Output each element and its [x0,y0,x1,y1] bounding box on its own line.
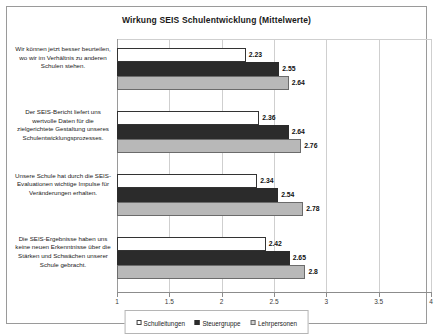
legend-item[interactable]: Schulleitungen [136,319,185,327]
bar-value-label: 2.78 [306,202,319,216]
x-tick-label: 1.5 [165,298,174,305]
bar [117,188,278,202]
x-tick-label: 3 [325,298,329,305]
bar-value-label: 2.55 [282,62,295,76]
legend-label: Lehrpersonen [258,320,297,327]
bar-value-label: 2.36 [262,111,275,125]
bar [117,48,246,62]
category-label: Wir können jetzt besser beurteilen, wo w… [15,45,111,71]
tick-mark [169,293,170,297]
tick-mark [222,293,223,297]
bar-value-label: 2.8 [308,265,317,279]
bar-value-label: 2.76 [304,139,317,153]
chart-title: Wirkung SEIS Schulentwicklung (Mittelwer… [7,15,426,25]
gridline [431,39,432,292]
legend-label: Steuergruppe [202,320,240,327]
bar-value-label: 2.23 [249,48,262,62]
bar [117,237,266,251]
bar [117,139,301,153]
legend-label: Schulleitungen [144,320,185,327]
tick-mark [326,293,327,297]
x-tick-label: 2 [220,298,224,305]
chart-frame: Wirkung SEIS Schulentwicklung (Mittelwer… [6,6,427,324]
x-tick-label: 4 [429,298,433,305]
tick-mark [379,293,380,297]
bar-value-label: 2.42 [269,237,282,251]
bar [117,174,257,188]
bar-value-label: 2.64 [292,76,305,90]
legend-swatch-icon [136,320,141,325]
bar [117,111,259,125]
x-tick-label: 3.5 [374,298,383,305]
bar-value-label: 2.34 [260,174,273,188]
bar [117,125,289,139]
bar [117,202,303,216]
x-tick-label: 1 [115,298,119,305]
category-label: Die SEIS-Ergebnisse haben uns keine neue… [15,235,111,269]
legend-item[interactable]: Steuergruppe [195,319,241,327]
legend-swatch-icon [251,320,256,325]
x-tick-label: 2.5 [269,298,278,305]
bar-value-label: 2.54 [281,188,294,202]
bar [117,265,305,279]
bar [117,251,290,265]
bar [117,76,289,90]
tick-mark [274,293,275,297]
bar [117,62,279,76]
tick-mark [431,293,432,297]
category-label: Der SEIS-Bericht liefert uns wertvolle D… [15,108,111,142]
bar-value-label: 2.65 [293,251,306,265]
bar-value-label: 2.64 [292,125,305,139]
category-label: Unsere Schule hat durch die SEIS-Evaluat… [15,172,111,198]
tick-mark [117,293,118,297]
legend-swatch-icon [195,320,200,325]
chart-legend: SchulleitungenSteuergruppeLehrpersonen [124,310,309,334]
legend-item[interactable]: Lehrpersonen [251,319,297,327]
